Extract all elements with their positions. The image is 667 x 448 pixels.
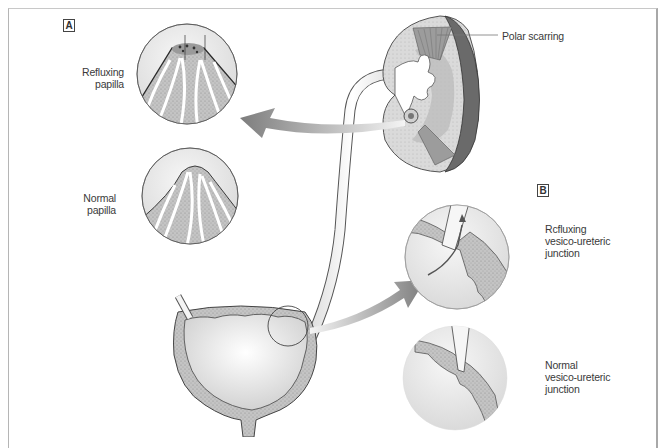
panel-tag-b: B [537,184,549,197]
label-normal-papilla: Normal papilla [60,192,116,216]
refluxing-papilla-illustration [130,24,240,130]
kidney-illustration [383,16,498,172]
bladder-illustration [174,296,317,437]
label-refluxing-vesico-ureteric-junction: Rcfluxing vesico-ureteric junction [545,223,610,259]
label-refluxing-papilla: Refluxing papilla [60,66,124,90]
label-normal-vesico-ureteric-junction: Normal vesico-ureteric junction [545,359,610,395]
arrow-to-refluxing-papilla [240,108,405,138]
panel-tag-a: A [63,19,75,32]
label-polar-scarring: Polar scarring [502,30,564,42]
refluxing-vuj-illustration [405,200,515,320]
normal-vuj-illustration [403,320,507,430]
normal-papilla-illustration [135,148,245,250]
